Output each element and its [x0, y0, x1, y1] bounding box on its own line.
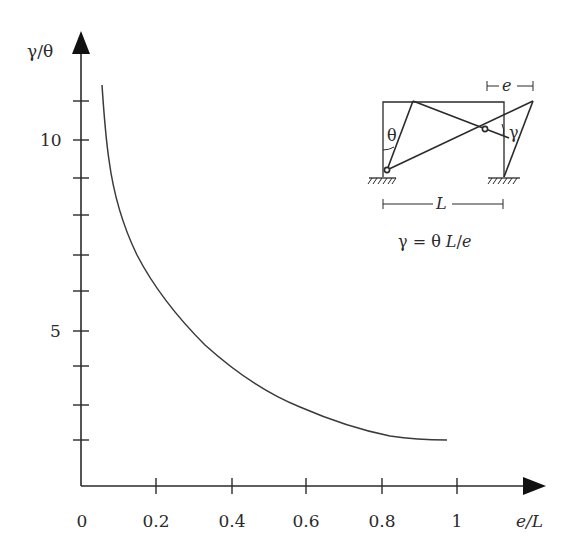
L-label: L — [435, 194, 447, 213]
theta-label: θ — [387, 126, 397, 145]
formula-lhs: γ = θ — [398, 232, 446, 251]
right-support-hatch-icon — [488, 178, 517, 184]
x-tick-label-0.8: 0.8 — [368, 511, 395, 531]
theta-arc — [383, 147, 394, 150]
y-axis-label: γ/θ — [27, 41, 53, 61]
y-tick-label-10: 10 — [40, 130, 62, 150]
formula-e: e — [462, 232, 471, 251]
x-axis-arrow-icon — [523, 477, 546, 495]
x-tick-label-1: 1 — [452, 511, 463, 531]
x-tick-label-0.2: 0.2 — [142, 511, 169, 531]
e-label: e — [502, 76, 511, 95]
formula-L: L — [445, 232, 457, 251]
x-tick-label-0.6: 0.6 — [292, 511, 319, 531]
x-tick-label-0.4: 0.4 — [218, 511, 245, 531]
formula: γ = θ L/e — [398, 232, 471, 251]
x-tick-label-0: 0 — [77, 511, 88, 531]
y-axis-arrow-icon — [72, 31, 90, 54]
y-tick-label-5: 5 — [50, 321, 61, 341]
frame-diagram — [368, 81, 533, 209]
middle-hinge-icon — [482, 126, 487, 131]
x-axis-label: e/L — [516, 511, 543, 531]
gamma-label: γ — [509, 123, 519, 142]
left-hinge-icon — [384, 167, 389, 172]
left-support-hatch-icon — [368, 178, 396, 184]
chart-canvas: γ/θ 10 5 0 0.2 0.4 0.6 0.8 1 e/L — [0, 0, 571, 546]
